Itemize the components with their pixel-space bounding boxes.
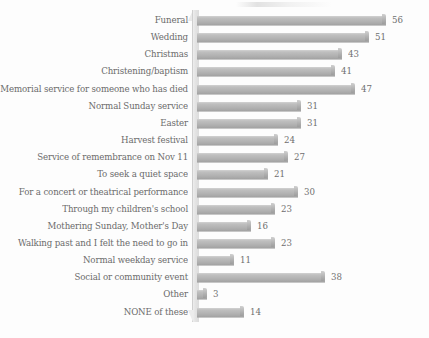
value-label: 41 bbox=[341, 64, 352, 77]
bar-end-cap bbox=[338, 48, 342, 58]
bar-fill bbox=[197, 239, 275, 248]
bar bbox=[197, 222, 251, 232]
bar-row: Memorial service for someone who has die… bbox=[0, 82, 429, 100]
bar-end-cap bbox=[203, 288, 207, 298]
bar-fill bbox=[197, 16, 386, 25]
bar-row: Mothering Sunday, Mother's Day16 bbox=[0, 219, 429, 237]
bar-fill bbox=[197, 205, 275, 214]
category-label: Funeral bbox=[0, 13, 188, 26]
bar-shadow bbox=[197, 299, 207, 300]
value-label: 14 bbox=[250, 305, 261, 318]
bar-row: Other3 bbox=[0, 287, 429, 305]
bar bbox=[197, 153, 288, 163]
bar-row: Funeral56 bbox=[0, 13, 429, 31]
bar-fill bbox=[197, 308, 244, 317]
bar-shadow bbox=[197, 265, 234, 266]
bar bbox=[197, 256, 234, 266]
bar-end-cap bbox=[365, 31, 369, 41]
bar-shadow bbox=[197, 162, 288, 163]
category-label: Easter bbox=[0, 116, 188, 129]
bar bbox=[197, 308, 244, 318]
bar-row: Christening/baptism41 bbox=[0, 64, 429, 82]
bar-fill bbox=[197, 170, 268, 179]
category-label: NONE of these bbox=[0, 305, 188, 318]
bar-shadow bbox=[197, 111, 301, 112]
bar bbox=[197, 290, 207, 300]
bar bbox=[197, 119, 301, 129]
bar-shadow bbox=[197, 179, 268, 180]
bar-shadow bbox=[197, 145, 278, 146]
bar-end-cap bbox=[382, 14, 386, 24]
bar-end-cap bbox=[351, 83, 355, 93]
category-label: Wedding bbox=[0, 30, 188, 43]
bar-fill bbox=[197, 222, 251, 231]
bar-end-cap bbox=[297, 117, 301, 127]
value-label: 27 bbox=[294, 150, 305, 163]
bar-fill bbox=[197, 153, 288, 162]
bar-fill bbox=[197, 33, 369, 42]
value-label: 51 bbox=[375, 30, 386, 43]
value-label: 11 bbox=[240, 253, 251, 266]
bar-end-cap bbox=[247, 220, 251, 230]
bar-end-cap bbox=[271, 237, 275, 247]
category-label: Normal Sunday service bbox=[0, 99, 188, 112]
bar bbox=[197, 205, 275, 215]
bar-row: Christmas43 bbox=[0, 47, 429, 65]
bar-end-cap bbox=[230, 254, 234, 264]
bar-fill bbox=[197, 50, 342, 59]
category-label: Service of remembrance on Nov 11 bbox=[0, 150, 188, 163]
bar-row: To seek a quiet space21 bbox=[0, 167, 429, 185]
bar-end-cap bbox=[294, 186, 298, 196]
category-label: Memorial service for someone who has die… bbox=[0, 82, 188, 95]
category-label: Mothering Sunday, Mother's Day bbox=[0, 219, 188, 232]
bar bbox=[197, 16, 386, 26]
bar bbox=[197, 239, 275, 249]
bar-shadow bbox=[197, 197, 298, 198]
bar-shadow bbox=[197, 282, 325, 283]
bar-row: Normal Sunday service31 bbox=[0, 99, 429, 117]
category-label: Through my children's school bbox=[0, 202, 188, 215]
bar-fill bbox=[197, 85, 355, 94]
bar-shadow bbox=[197, 42, 369, 43]
bar-row: Walking past and I felt the need to go i… bbox=[0, 236, 429, 254]
bar bbox=[197, 273, 325, 283]
bar-fill bbox=[197, 256, 234, 265]
category-label: To seek a quiet space bbox=[0, 167, 188, 180]
category-label: Walking past and I felt the need to go i… bbox=[0, 236, 188, 249]
value-label: 21 bbox=[274, 167, 285, 180]
value-label: 56 bbox=[392, 13, 403, 26]
bar-end-cap bbox=[264, 168, 268, 178]
value-label: 24 bbox=[284, 133, 295, 146]
bar-shadow bbox=[197, 128, 301, 129]
bar bbox=[197, 50, 342, 60]
category-label: Social or community event bbox=[0, 270, 188, 283]
bar-row: Social or community event38 bbox=[0, 270, 429, 288]
bar-end-cap bbox=[274, 134, 278, 144]
value-label: 43 bbox=[348, 47, 359, 60]
bar-fill bbox=[197, 273, 325, 282]
category-label: For a concert or theatrical performance bbox=[0, 185, 188, 198]
bar bbox=[197, 102, 301, 112]
bar-end-cap bbox=[271, 203, 275, 213]
category-label: Harvest festival bbox=[0, 133, 188, 146]
bar bbox=[197, 136, 278, 146]
bar-fill bbox=[197, 136, 278, 145]
value-label: 31 bbox=[307, 99, 318, 112]
value-label: 23 bbox=[281, 202, 292, 215]
category-label: Christening/baptism bbox=[0, 64, 188, 77]
bar bbox=[197, 33, 369, 43]
bar-end-cap bbox=[331, 65, 335, 75]
bar-chart: Funeral56Wedding51Christmas43Christening… bbox=[0, 0, 429, 338]
bar-fill bbox=[197, 67, 335, 76]
value-label: 23 bbox=[281, 236, 292, 249]
bar bbox=[197, 170, 268, 180]
bar-shadow bbox=[197, 59, 342, 60]
value-label: 31 bbox=[307, 116, 318, 129]
bar-end-cap bbox=[240, 306, 244, 316]
value-label: 30 bbox=[304, 185, 315, 198]
bar-shadow bbox=[197, 231, 251, 232]
bar-row: Through my children's school23 bbox=[0, 202, 429, 220]
bar-shadow bbox=[197, 76, 335, 77]
bar bbox=[197, 67, 335, 77]
bar-shadow bbox=[197, 94, 355, 95]
